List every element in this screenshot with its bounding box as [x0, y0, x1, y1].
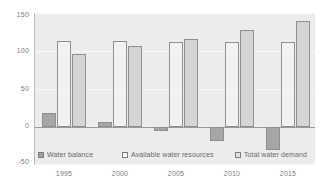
x-tick-label-2005: 2005: [168, 170, 184, 178]
bar-2010-available-water-resources: [225, 42, 239, 127]
y-tick-label-50: 50: [21, 85, 29, 92]
bar-2010-total-water-demand: [240, 30, 254, 127]
bar-2010-water-balance: [210, 127, 224, 141]
legend-item-water-balance[interactable]: Water balance: [38, 149, 93, 161]
legend-item-available-water-resources[interactable]: Available water resources: [122, 149, 214, 161]
bar-2000-available-water-resources: [113, 41, 127, 127]
legend-swatch-available-water-resources-icon: [122, 152, 128, 158]
y-tick-label-100: 100: [17, 47, 29, 54]
bar-1995-available-water-resources: [57, 41, 71, 127]
legend-label-available-water-resources: Available water resources: [131, 151, 214, 159]
bar-chart: 150 100 50 0 -50: [0, 0, 323, 194]
bar-group-2010: [207, 13, 259, 165]
y-tick-label--50: -50: [18, 158, 29, 165]
bar-group-2015: [263, 13, 315, 165]
bar-group-1995: [39, 13, 91, 165]
bar-2015-total-water-demand: [296, 21, 310, 127]
plot-area: [34, 13, 315, 165]
x-tick-label-2010: 2010: [224, 170, 240, 178]
x-tick-label-2015: 2015: [280, 170, 296, 178]
legend-item-total-water-demand[interactable]: Total water demand: [235, 149, 307, 161]
y-tick-label-0: 0: [25, 122, 29, 129]
y-tick-label-150: 150: [17, 11, 29, 18]
legend-swatch-total-water-demand-icon: [235, 152, 241, 158]
bars-layer: [35, 13, 315, 165]
bar-2015-available-water-resources: [281, 42, 295, 127]
bar-1995-water-balance: [42, 113, 56, 127]
bar-2005-total-water-demand: [184, 39, 198, 127]
bar-2015-water-balance: [266, 127, 280, 150]
bar-1995-total-water-demand: [72, 54, 86, 127]
legend-label-total-water-demand: Total water demand: [244, 151, 307, 159]
legend-label-water-balance: Water balance: [47, 151, 93, 159]
legend-swatch-water-balance-icon: [38, 152, 44, 158]
bar-2000-total-water-demand: [128, 46, 142, 127]
bar-group-2005: [151, 13, 203, 165]
x-tick-label-1995: 1995: [56, 170, 72, 178]
x-tick-label-2000: 2000: [112, 170, 128, 178]
y-axis: 150 100 50 0 -50: [0, 0, 31, 194]
x-axis: 1995 2000 2005 2010 2015: [34, 170, 315, 182]
bar-2005-water-balance: [154, 127, 168, 131]
bar-2005-available-water-resources: [169, 42, 183, 127]
bar-2000-water-balance: [98, 122, 112, 127]
bar-group-2000: [95, 13, 147, 165]
chart-legend: Water balance Available water resources …: [38, 149, 308, 161]
